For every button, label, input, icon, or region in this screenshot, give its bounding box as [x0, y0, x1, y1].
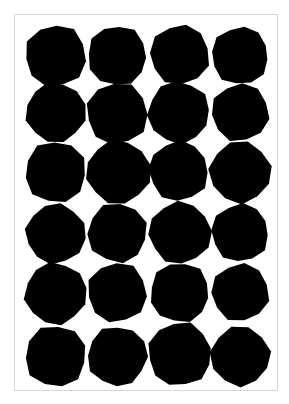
dot [87, 84, 148, 144]
dot [86, 139, 151, 203]
dot [212, 83, 269, 141]
dot-pattern [15, 15, 277, 390]
dot [26, 82, 86, 142]
dot [150, 25, 209, 84]
dot [26, 327, 85, 386]
dot [148, 323, 210, 385]
dot [88, 328, 148, 387]
dot [148, 201, 212, 264]
dot [211, 263, 269, 320]
dot [148, 140, 207, 201]
dot [211, 203, 267, 261]
dot [147, 81, 209, 144]
dot [208, 141, 271, 204]
dot [210, 327, 271, 388]
dot [26, 143, 85, 202]
dot [151, 264, 208, 322]
print-frame [14, 14, 278, 391]
dot [212, 27, 267, 84]
dot [89, 27, 146, 84]
dot [87, 204, 146, 263]
dot [89, 263, 147, 322]
dot [25, 203, 86, 264]
dot [26, 26, 86, 86]
dot [24, 262, 87, 325]
